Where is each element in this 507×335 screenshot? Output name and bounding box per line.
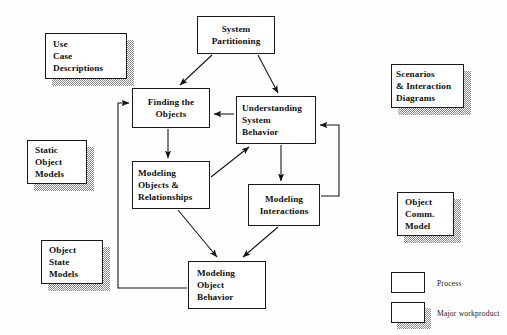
node-line: Object [197, 279, 224, 291]
node-line: Models [35, 168, 64, 180]
node-line: Models [49, 268, 78, 280]
node-line: Relationships [138, 191, 192, 203]
process-modeling-object-behavior[interactable]: Modeling Object Behavior [188, 261, 266, 309]
node-line: Model [405, 220, 431, 232]
node-line: State [49, 256, 69, 268]
node-line: System [242, 114, 271, 126]
node-line: Object [405, 196, 432, 208]
node-line: Objects [156, 108, 187, 120]
process-flow-diagram: Use Case Descriptions Static Object Mode… [0, 0, 507, 335]
node-line: Static [35, 144, 58, 156]
process-finding-the-objects[interactable]: Finding the Objects [132, 88, 210, 128]
edge-modeling-objects-to-object-behavior [178, 210, 217, 257]
edge-modeling-interactions-to-understanding [320, 125, 339, 196]
edge-partitioning-to-understanding [258, 55, 278, 93]
process-modeling-interactions[interactable]: Modeling Interactions [248, 184, 320, 226]
edge-modeling-objects-to-understanding [211, 147, 249, 177]
workproduct-scenarios-interaction-diagrams[interactable]: Scenarios & Interaction Diagrams [391, 64, 464, 108]
workproduct-use-case-descriptions[interactable]: Use Case Descriptions [45, 33, 127, 79]
node-line: Descriptions [53, 62, 103, 74]
workproduct-object-state-models[interactable]: Object State Models [41, 240, 103, 284]
node-line: Objects & [138, 179, 179, 191]
node-line: Object [49, 244, 76, 256]
node-line: Object [35, 156, 62, 168]
node-line: Modeling [197, 267, 235, 279]
edge-partitioning-to-finding [180, 55, 212, 85]
legend-process-label: Process [437, 279, 462, 289]
node-line: Case [53, 50, 72, 62]
node-line: Modeling [265, 193, 303, 205]
process-understanding-system-behavior[interactable]: Understanding System Behavior [236, 96, 316, 144]
node-line: & Interaction [396, 80, 451, 92]
node-line: Comm. [405, 208, 434, 220]
edge-modeling-interactions-to-object-behavior [243, 227, 278, 257]
node-line: Diagrams [396, 92, 435, 104]
workproduct-static-object-models[interactable]: Static Object Models [27, 140, 87, 184]
process-modeling-objects-relationships[interactable]: Modeling Objects & Relationships [132, 161, 210, 209]
workproduct-object-comm-model[interactable]: Object Comm. Model [397, 192, 454, 236]
legend-process-swatch [391, 272, 425, 293]
legend-workproduct-label: Major workproduct [437, 309, 500, 319]
node-line: Interactions [260, 205, 309, 217]
node-line: Behavior [197, 291, 234, 303]
node-line: Partitioning [212, 35, 261, 47]
node-line: Finding the [148, 96, 194, 108]
node-line: Behavior [242, 126, 279, 138]
node-line: System [222, 23, 251, 35]
node-line: Use [53, 38, 68, 50]
node-line: Understanding [242, 102, 302, 114]
process-system-partitioning[interactable]: System Partitioning [197, 16, 275, 54]
node-line: Scenarios [396, 68, 435, 80]
legend-workproduct-swatch [391, 302, 425, 323]
node-line: Modeling [138, 167, 176, 179]
